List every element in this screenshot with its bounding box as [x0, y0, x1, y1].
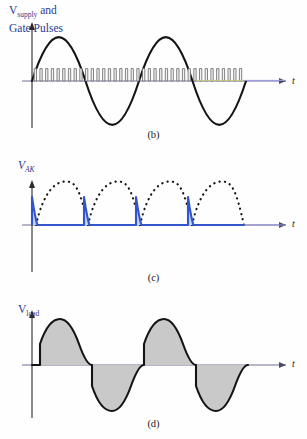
panel-d-vload: Vload t (d) [0, 290, 307, 439]
panel-c-x-axis-label: t [292, 218, 295, 229]
panel-c-vak: VAK t (c) [0, 150, 307, 290]
panel-c-plot [0, 150, 307, 290]
panel-b-y-label-sub: supply [17, 10, 37, 19]
panel-c-spike-fills [32, 197, 193, 225]
panel-b-y-label-and: and [37, 4, 56, 16]
panel-d-load-voltage-fill [32, 319, 248, 411]
panel-b-gate-pulse-train [34, 69, 242, 81]
panel-d-plot [0, 290, 307, 439]
panel-d-y-axis-label: Vload [18, 303, 39, 318]
panel-b-x-axis-label: t [292, 75, 295, 86]
panel-c-caption: (c) [0, 272, 307, 283]
panel-c-y-label-sub: AK [25, 165, 35, 174]
figure-page: Vsupply and Gate Pulses t (b) [0, 0, 307, 439]
panel-c-y-axis-label: VAK [18, 159, 35, 174]
panel-b-caption: (b) [0, 129, 307, 140]
panel-c-y-label-v: V [18, 159, 25, 171]
panel-b-y-axis-label: Vsupply and Gate Pulses [9, 4, 63, 35]
panel-b-x-axis-arrow [279, 78, 286, 84]
panel-b-y-label-line2: Gate Pulses [9, 22, 63, 34]
panel-d-y-label-sub: load [26, 309, 39, 318]
panel-d-caption: (d) [0, 418, 307, 429]
panel-d-x-axis-label: t [292, 358, 295, 369]
panel-c-y-axis-arrow [29, 180, 35, 188]
panel-d-x-axis-arrow [279, 362, 286, 368]
panel-b-supply-and-gate-pulses: Vsupply and Gate Pulses t (b) [0, 0, 307, 150]
